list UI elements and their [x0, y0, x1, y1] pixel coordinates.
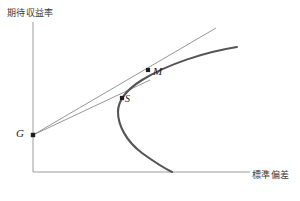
point-marker-m — [146, 68, 150, 72]
point-marker-g — [31, 133, 35, 137]
tangent-line-through-m — [33, 28, 216, 135]
efficient-frontier-diagram: 期待収益率 標準偏差 M S G — [0, 0, 300, 201]
x-axis-label: 標準偏差 — [252, 168, 289, 181]
point-marker-s — [120, 96, 124, 100]
efficient-frontier-curve — [118, 47, 237, 172]
secant-line-through-s — [33, 80, 150, 135]
point-label-s: S — [125, 93, 130, 104]
point-label-m: M — [153, 65, 162, 77]
y-axis-label: 期待収益率 — [7, 6, 54, 19]
point-label-g: G — [16, 127, 24, 139]
